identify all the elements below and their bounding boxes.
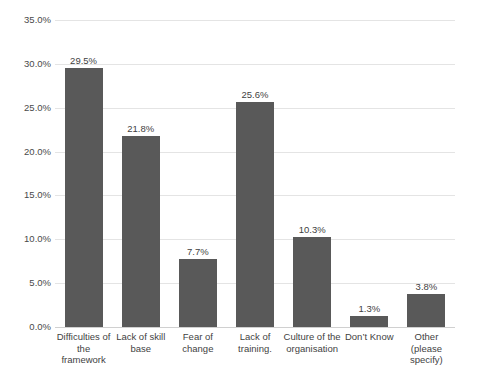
bar[interactable] bbox=[122, 136, 160, 327]
bar-value-label: 25.6% bbox=[222, 89, 288, 100]
bar-value-label: 21.8% bbox=[108, 123, 174, 134]
plot-area: 29.5%21.8%7.7%25.6%10.3%1.3%3.8% bbox=[55, 20, 455, 327]
y-axis-tick-label: 35.0% bbox=[5, 15, 51, 25]
x-axis-category-label: Culture of the organisation bbox=[284, 331, 341, 354]
bar-value-label: 7.7% bbox=[165, 246, 231, 257]
x-axis-category-label: Lack of training. bbox=[226, 331, 283, 354]
bar[interactable] bbox=[65, 68, 103, 327]
bar-group: 21.8% bbox=[122, 20, 160, 327]
bar[interactable] bbox=[293, 237, 331, 327]
y-axis-tick-label: 10.0% bbox=[5, 234, 51, 244]
bar-group: 25.6% bbox=[236, 20, 274, 327]
bar-group: 3.8% bbox=[407, 20, 445, 327]
x-axis: Difficulties of the frameworkLack of ski… bbox=[55, 331, 455, 373]
y-axis: 0.0%5.0%10.0%15.0%20.0%25.0%30.0%35.0% bbox=[0, 0, 51, 373]
y-axis-tick-label: 15.0% bbox=[5, 190, 51, 200]
x-axis-category-label: Difficulties of the framework bbox=[55, 331, 112, 366]
bar[interactable] bbox=[407, 294, 445, 327]
bar[interactable] bbox=[350, 316, 388, 327]
bar-group: 7.7% bbox=[179, 20, 217, 327]
x-axis-category-label: Other (please specify) bbox=[398, 331, 455, 366]
gridline bbox=[55, 327, 455, 328]
bar-group: 10.3% bbox=[293, 20, 331, 327]
y-axis-tick-label: 25.0% bbox=[5, 103, 51, 113]
bar-group: 29.5% bbox=[65, 20, 103, 327]
y-axis-tick-label: 0.0% bbox=[5, 322, 51, 332]
bar[interactable] bbox=[179, 259, 217, 327]
bar-value-label: 29.5% bbox=[51, 55, 117, 66]
bar-value-label: 1.3% bbox=[336, 303, 402, 314]
y-axis-tick-label: 5.0% bbox=[5, 278, 51, 288]
x-axis-category-label: Fear of change bbox=[169, 331, 226, 354]
bar[interactable] bbox=[236, 102, 274, 327]
bar-value-label: 3.8% bbox=[393, 281, 459, 292]
bar-chart: 0.0%5.0%10.0%15.0%20.0%25.0%30.0%35.0% 2… bbox=[0, 0, 477, 373]
x-axis-category-label: Lack of skill base bbox=[112, 331, 169, 354]
y-axis-tick-label: 30.0% bbox=[5, 59, 51, 69]
bar-group: 1.3% bbox=[350, 20, 388, 327]
y-axis-tick-label: 20.0% bbox=[5, 147, 51, 157]
bar-value-label: 10.3% bbox=[279, 224, 345, 235]
x-axis-category-label: Don’t Know bbox=[341, 331, 398, 343]
